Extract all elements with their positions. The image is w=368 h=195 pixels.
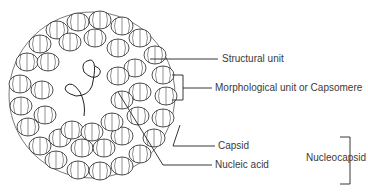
virus-diagram: [0, 0, 368, 195]
label-structural-unit: Structural unit: [222, 53, 284, 65]
label-morphological-unit: Morphological unit or Capsomere: [215, 82, 362, 94]
label-capsid: Capsid: [218, 140, 249, 152]
label-nucleic-acid: Nucleic acid: [215, 159, 269, 171]
label-nucleocapsid: Nucleocapsid: [306, 152, 366, 164]
capsid-shell: [9, 11, 177, 180]
